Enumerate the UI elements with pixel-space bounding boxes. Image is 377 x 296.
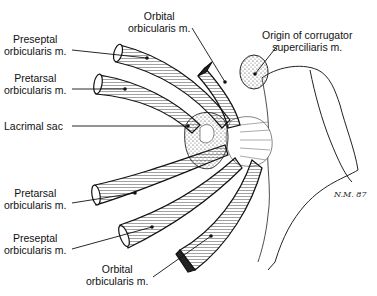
label-orbital-upper: Orbital orbicularis m. [128, 10, 190, 34]
bone-outline [258, 66, 358, 270]
label-line: orbicularis m. [4, 199, 66, 211]
label-orbital-lower: Orbital orbicularis m. [86, 263, 148, 287]
label-line: Pretarsal [4, 187, 66, 199]
label-line: orbicularis m. [86, 275, 148, 287]
artist-signature: N.M. 87 [334, 190, 367, 199]
label-line: orbicularis m. [4, 244, 66, 256]
corrugator-origin [240, 55, 268, 89]
label-lacrimal-sac: Lacrimal sac [4, 120, 63, 132]
label-preseptal-lower: Preseptal orbicularis m. [4, 232, 66, 256]
label-pretarsal-upper: Pretarsal orbicularis m. [4, 72, 66, 96]
label-line: orbicularis m. [4, 45, 66, 57]
label-pretarsal-lower: Pretarsal orbicularis m. [4, 187, 66, 211]
label-line: superciliaris m. [262, 41, 352, 53]
label-line: Orbital [128, 10, 190, 22]
label-line: Preseptal [4, 232, 66, 244]
label-line: Preseptal [4, 33, 66, 45]
label-line: orbicularis m. [128, 22, 190, 34]
label-line: Orbital [86, 263, 148, 275]
label-line: Origin of corrugator [262, 29, 352, 41]
label-corrugator-origin: Origin of corrugator superciliaris m. [262, 29, 352, 53]
label-line: Pretarsal [4, 72, 66, 84]
label-line: orbicularis m. [4, 84, 66, 96]
label-preseptal-upper: Preseptal orbicularis m. [4, 33, 66, 57]
